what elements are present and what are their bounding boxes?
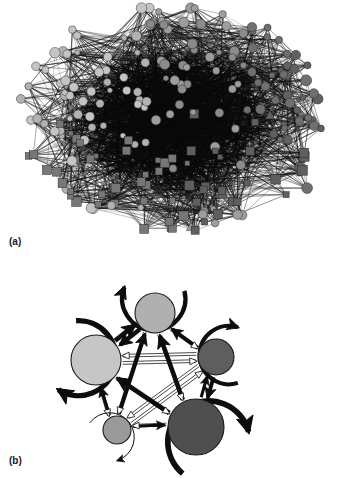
network-node-circle [272,96,280,104]
network-node-circle [103,78,111,86]
network-node-circle [32,62,41,71]
network-node-circle [16,95,25,104]
network-node-square [202,219,208,225]
network-node-circle [69,83,78,92]
network-node-circle [121,35,127,41]
network-node-square [29,151,37,159]
network-node-circle [261,82,270,91]
network-node-square [98,191,105,198]
network-node-square [68,189,74,195]
network-node-circle [304,62,311,69]
network-node-square [140,225,149,234]
network-node-circle [275,36,282,43]
network-node-circle [213,67,220,74]
network-node-circle [228,85,236,93]
network-node-square [200,186,207,193]
network-node-square [53,168,62,177]
network-node-circle [236,160,245,169]
network-node-circle [233,210,243,220]
network-node-circle [255,104,265,114]
network-node-circle [160,21,168,29]
network-node-circle [269,72,275,78]
coarse-edge-thick [201,377,207,398]
network-node-circle [211,219,219,227]
network-node-square [187,146,196,155]
network-node-circle [294,106,301,113]
coarse-edge-thin [122,352,197,359]
network-node-circle [141,58,150,67]
network-node-circle [123,87,131,95]
network-node-circle [285,98,295,108]
network-node-circle [190,109,196,115]
network-node-square [271,175,281,185]
network-node-square [124,136,132,144]
network-node-square [179,211,189,221]
network-node-circle [248,43,257,52]
network-node-circle [61,76,71,86]
network-node-circle [183,64,190,71]
network-node-circle [216,49,222,55]
network-node-square [86,155,94,163]
network-node-circle [170,76,180,86]
network-node-square [185,181,195,191]
network-node-square [244,180,250,186]
network-node-circle [100,122,107,129]
network-node-circle [142,97,151,106]
network-node-circle [103,52,112,61]
network-node-circle [283,50,290,57]
network-node-circle [231,125,239,133]
network-node-square [218,187,226,195]
network-node-circle [25,83,32,90]
network-node-square [143,172,149,178]
network-node-square [68,131,73,136]
coarse-node-right[interactable] [198,339,234,375]
network-node-circle [151,115,161,125]
network-node-square [168,155,176,163]
network-node-circle [309,89,318,98]
network-node-circle [175,100,184,109]
network-node-circle [67,156,77,166]
network-node-circle [239,29,248,38]
network-node-square [122,147,130,155]
network-node-square [213,209,222,218]
network-node-circle [163,75,169,81]
network-node-circle [290,64,299,73]
network-node-square [95,202,101,208]
network-node-circle [247,22,256,31]
network-node-square [212,148,218,154]
network-node-circle [136,3,147,14]
network-node-circle [179,17,189,27]
network-node-circle [75,50,80,55]
network-node-square [297,165,307,175]
network-node-circle [166,110,174,118]
network-node-circle [291,50,300,59]
network-node-circle [131,31,141,41]
coarse-node-left[interactable] [71,335,121,385]
network-node-circle [62,90,68,96]
network-node-circle [277,137,283,143]
network-node-square [234,198,241,205]
coarse-node-bottom-left[interactable] [103,416,131,444]
network-node-circle [147,20,155,28]
network-node-circle [229,54,236,61]
network-node-circle [301,75,312,86]
network-node-circle [169,164,177,172]
network-node-square [76,140,83,147]
coarse-nodes [71,293,234,455]
network-node-square [155,168,162,175]
network-node-square [252,119,259,126]
network-node-circle [41,120,49,128]
dense-network-svg [0,0,338,260]
network-node-circle [85,112,94,121]
network-node-circle [120,73,128,81]
network-node-circle [107,88,112,93]
network-node-circle [107,201,115,209]
network-node-square [170,197,176,203]
coarse-node-top[interactable] [135,293,175,333]
network-node-circle [248,68,257,77]
coarse-node-bottom-right[interactable] [168,399,224,455]
network-node-circle [222,21,231,30]
network-node-square [191,226,199,234]
network-node-circle [135,50,141,56]
network-node-circle [219,11,226,18]
